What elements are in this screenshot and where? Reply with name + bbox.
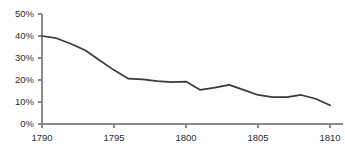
y-tick-label: 10% <box>15 96 35 107</box>
plot-area: 0%10%20%30%40%50% 17901795180018051810 <box>15 8 343 143</box>
chart-canvas: 0%10%20%30%40%50% 17901795180018051810 <box>0 0 345 151</box>
y-axis-tick-labels: 0%10%20%30%40%50% <box>15 8 35 129</box>
x-tick-label: 1810 <box>319 132 340 143</box>
data-series-line <box>42 36 330 105</box>
x-tick-label: 1805 <box>247 132 268 143</box>
line-chart: 0%10%20%30%40%50% 17901795180018051810 <box>0 0 345 151</box>
y-tick-label: 30% <box>15 52 35 63</box>
x-tick-label: 1790 <box>31 132 52 143</box>
y-tick-label: 0% <box>20 118 34 129</box>
x-tick-label: 1800 <box>175 132 196 143</box>
y-tick-label: 40% <box>15 30 35 41</box>
y-tick-label: 50% <box>15 8 35 19</box>
y-tick-label: 20% <box>15 74 35 85</box>
x-axis-tick-labels: 17901795180018051810 <box>31 132 340 143</box>
x-tick-label: 1795 <box>103 132 124 143</box>
